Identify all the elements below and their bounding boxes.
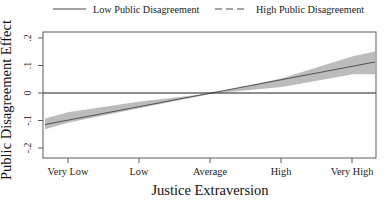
- x-tick-label-very-low: Very Low: [48, 166, 89, 177]
- y-tick-label-2: 0: [22, 90, 33, 95]
- plot-svg: Low Public Disagreement High Public Disa…: [0, 0, 385, 200]
- y-tick-label-1: .1: [22, 62, 33, 69]
- legend-label-low: Low Public Disagreement: [93, 4, 200, 15]
- y-tick-label-0: .2: [22, 34, 33, 41]
- legend-label-high: High Public Disagreement: [256, 4, 364, 15]
- x-tick-label-average: Average: [193, 166, 228, 177]
- x-tick-label-low: Low: [130, 166, 149, 177]
- figure-panel: Low Public Disagreement High Public Disa…: [0, 0, 385, 200]
- y-tick-label-4: -.2: [22, 143, 33, 154]
- x-tick-label-high: High: [271, 166, 292, 177]
- x-axis-title: Justice Extraversion: [151, 182, 269, 198]
- y-axis-title: Public Disagreement Effect: [0, 20, 14, 180]
- x-tick-label-very-high: Very High: [331, 166, 374, 177]
- y-tick-label-3: -.1: [22, 115, 33, 126]
